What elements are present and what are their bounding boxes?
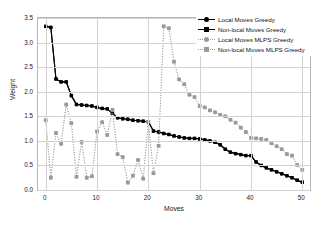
data-point <box>229 118 233 122</box>
x-axis-label: Moves <box>37 205 311 212</box>
data-point <box>203 106 207 110</box>
data-point <box>229 150 232 153</box>
data-point <box>100 120 104 124</box>
y-tick-label: 1.0 <box>24 136 33 143</box>
data-point <box>136 119 139 122</box>
x-tick-label: 40 <box>246 194 253 201</box>
data-point <box>157 130 160 133</box>
data-point <box>54 131 58 135</box>
x-tick-label: 10 <box>93 194 100 201</box>
legend-marker-icon <box>198 25 215 34</box>
legend-marker-icon <box>198 35 215 44</box>
data-point <box>80 103 83 106</box>
data-point <box>254 160 257 163</box>
data-point <box>70 94 73 97</box>
legend-item-1[interactable]: Non-local Moves Greedy <box>198 24 310 34</box>
data-point <box>49 176 53 180</box>
gridline-horizontal <box>38 141 310 142</box>
data-point <box>218 143 221 146</box>
y-tick-label: 0.0 <box>24 186 33 193</box>
legend-label: Local Moves MLPS Greedy <box>215 36 293 43</box>
data-point <box>126 118 129 121</box>
data-point <box>285 152 289 156</box>
data-point <box>167 27 171 31</box>
data-point <box>193 95 197 99</box>
data-point <box>280 147 284 151</box>
gridline-vertical <box>97 18 98 190</box>
data-point <box>105 133 109 137</box>
x-tick-label: 30 <box>195 194 202 201</box>
gridline-vertical <box>148 18 149 190</box>
data-point <box>234 121 238 125</box>
data-point <box>193 137 196 140</box>
data-point <box>59 142 63 146</box>
data-point <box>275 144 279 148</box>
gridline-vertical <box>46 18 47 190</box>
x-tick-label: 20 <box>144 194 151 201</box>
data-point <box>239 153 242 156</box>
data-point <box>116 152 120 156</box>
y-axis-tick-labels: 0.00.51.01.52.02.53.03.5 <box>0 17 33 191</box>
data-point <box>126 181 130 185</box>
chart-legend: Local Moves GreedyNon-local Moves Greedy… <box>196 13 312 56</box>
data-point <box>265 166 268 169</box>
data-point <box>90 174 94 178</box>
data-point <box>152 129 155 132</box>
legend-label: Local Moves Greedy <box>215 16 275 23</box>
data-point <box>59 80 62 83</box>
data-point <box>49 26 52 29</box>
legend-item-2[interactable]: Local Moves MLPS Greedy <box>198 34 310 44</box>
chart-figure: Weight 0.00.51.01.52.02.53.03.5 01020304… <box>0 0 325 233</box>
data-point <box>285 174 288 177</box>
legend-label: Non-local Moves MLPS Greedy <box>215 46 305 53</box>
data-point <box>244 130 248 134</box>
data-point <box>162 25 166 29</box>
data-point <box>290 154 294 158</box>
data-point <box>111 108 115 112</box>
data-point <box>54 77 57 80</box>
data-point <box>100 107 103 110</box>
data-point <box>167 133 170 136</box>
data-point <box>70 121 74 125</box>
x-tick-label: 50 <box>298 194 305 201</box>
data-point <box>295 178 298 181</box>
gridline-horizontal <box>38 92 310 93</box>
gridline-horizontal <box>38 190 310 191</box>
x-tick-label: 0 <box>43 194 47 201</box>
data-point <box>280 172 283 175</box>
data-point <box>106 107 109 110</box>
y-tick-label: 3.0 <box>24 38 33 45</box>
data-point <box>270 168 273 171</box>
data-point <box>162 132 165 135</box>
data-point <box>64 103 68 107</box>
data-point <box>90 104 93 107</box>
data-point <box>85 176 89 180</box>
data-point <box>177 135 180 138</box>
data-point <box>131 174 135 178</box>
data-point <box>172 60 176 64</box>
data-point <box>131 119 134 122</box>
legend-item-3[interactable]: Non-local Moves MLPS Greedy <box>198 44 310 54</box>
gridline-horizontal <box>38 116 310 117</box>
data-point <box>75 103 78 106</box>
data-point <box>65 80 68 83</box>
data-point <box>183 136 186 139</box>
y-tick-label: 0.5 <box>24 161 33 168</box>
y-tick-label: 2.5 <box>24 63 33 70</box>
data-point <box>208 109 212 113</box>
data-point <box>121 117 124 120</box>
gridline-horizontal <box>38 67 310 68</box>
y-tick-label: 3.5 <box>24 14 33 21</box>
data-point <box>152 171 156 175</box>
legend-item-0[interactable]: Local Moves Greedy <box>198 14 310 24</box>
data-point <box>75 175 79 179</box>
data-point <box>172 134 175 137</box>
data-point <box>121 155 125 159</box>
data-point <box>188 93 192 97</box>
data-point <box>136 158 140 162</box>
y-tick-label: 1.5 <box>24 112 33 119</box>
x-axis-tick-labels: 01020304050 <box>37 194 311 204</box>
data-point <box>188 137 191 140</box>
legend-label: Non-local Moves Greedy <box>215 26 286 33</box>
data-point <box>234 152 237 155</box>
